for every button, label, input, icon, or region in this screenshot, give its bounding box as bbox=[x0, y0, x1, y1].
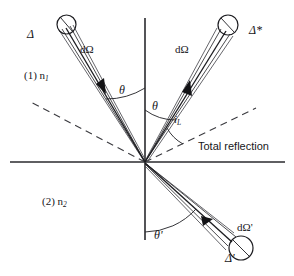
refracted-beam-lower bbox=[145, 163, 253, 260]
beam-fan-left-a bbox=[62, 29, 145, 162]
axes-group bbox=[10, 18, 285, 240]
beam-area-circle-delta-prime-tick bbox=[233, 240, 249, 256]
beam-direction-arrow-lower bbox=[201, 216, 213, 226]
arc-critical-angle bbox=[167, 128, 183, 144]
beam-edge-right-outer bbox=[145, 28, 217, 161]
beam-area-circle-delta-star-tick bbox=[221, 18, 234, 32]
beam-fan-right-a bbox=[145, 29, 221, 162]
beam-fan-lower-a bbox=[145, 163, 236, 237]
optics-diagram bbox=[0, 0, 294, 276]
beam-edge-right-inner bbox=[147, 36, 233, 162]
beam-fan-right-b bbox=[145, 34, 230, 162]
arc-theta-prime bbox=[145, 209, 196, 232]
beam-edge-lower-inner bbox=[145, 166, 226, 250]
beam-axis-right bbox=[145, 31, 226, 162]
beam-axis-left bbox=[66, 28, 145, 162]
beam-edge-left-outer bbox=[59, 30, 144, 161]
incident-beam-left bbox=[57, 15, 146, 162]
dashed-rays-group bbox=[29, 101, 256, 162]
beam-fan-lower-b bbox=[145, 164, 228, 246]
